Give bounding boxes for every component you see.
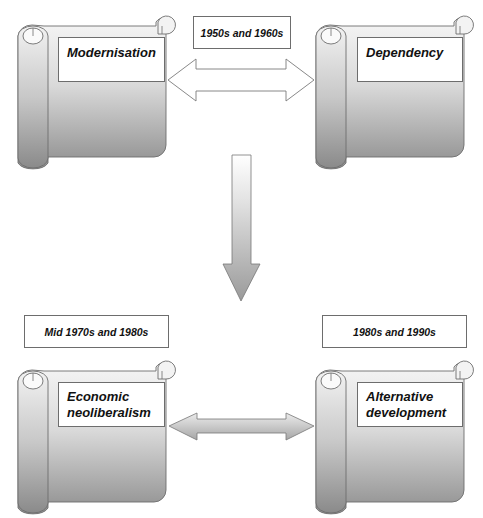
node-label-alternative-development: Alternative development: [357, 382, 463, 427]
double-arrow-top: [168, 59, 314, 101]
node-text-alternative-line1: Alternative: [366, 389, 454, 405]
node-text-modernisation: Modernisation: [67, 45, 156, 60]
node-label-dependency: Dependency: [357, 37, 463, 82]
period-label-bottom-right: 1980s and 1990s: [322, 315, 467, 348]
node-label-economic-neoliberalism: Economic neoliberalism: [58, 382, 165, 427]
period-label-top: 1950s and 1960s: [193, 16, 291, 49]
node-label-modernisation: Modernisation: [58, 37, 165, 82]
node-text-neoliberalism-line2: neoliberalism: [67, 405, 156, 421]
period-label-bottom-left: Mid 1970s and 1980s: [24, 315, 169, 348]
node-text-dependency: Dependency: [366, 45, 443, 60]
down-arrow: [223, 155, 260, 301]
node-text-alternative-line2: development: [366, 405, 454, 421]
node-text-neoliberalism-line1: Economic: [67, 389, 156, 405]
double-arrow-bottom: [169, 413, 314, 440]
